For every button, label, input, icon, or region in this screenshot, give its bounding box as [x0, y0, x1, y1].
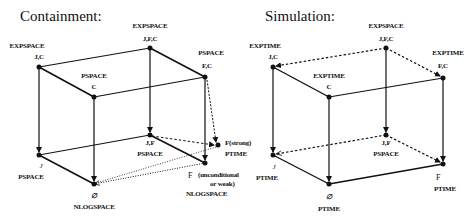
- sim-node-jf-class: PSPACE: [373, 150, 399, 159]
- node-fc-class: PSPACE: [198, 49, 224, 58]
- containment-title: Containment:: [20, 8, 102, 25]
- node-fstrong-class: PTIME: [225, 150, 247, 159]
- sim-node-fc-set: F,C: [438, 62, 448, 71]
- sim-node-jc-set: J,C: [268, 53, 278, 62]
- simulation-title: Simulation:: [265, 8, 335, 25]
- node-jc-set: J,C: [34, 53, 44, 62]
- edge-j-empty: [273, 155, 329, 184]
- sim-node-j-class: PTIME: [256, 174, 278, 183]
- node-jfc-set: J,F,C: [143, 35, 158, 44]
- node-jf-set: J,F: [146, 139, 155, 148]
- sim-node-empty-class: PTIME: [318, 205, 340, 214]
- node-empty-class: NLOGSPACE: [73, 203, 114, 212]
- edge-jc-jfc: [39, 48, 150, 67]
- edge-jfc-fc: [150, 48, 205, 77]
- simulation-cube: [271, 46, 446, 187]
- node-jfc-class: EXPSPACE: [133, 22, 168, 31]
- edge-jfc-jc-dashed: [276, 48, 386, 66]
- sim-node-jf-set: J,F: [382, 139, 391, 148]
- sim-node-f-set: F: [436, 173, 440, 182]
- sim-node-fc-class: EXPTIME: [432, 49, 463, 58]
- node-f-note1: (unconditional: [198, 171, 239, 180]
- sim-node-jc-class: EXPTIME: [249, 42, 280, 51]
- edge-empty-f: [329, 164, 443, 184]
- node-jf-class: PSPACE: [137, 150, 163, 159]
- node-c-class: PSPACE: [81, 72, 107, 81]
- sim-node-j-set: J: [273, 163, 276, 172]
- sim-node-jfc-set: J,F,C: [379, 35, 394, 44]
- containment-cube: [37, 46, 221, 187]
- node-fc-set: F,C: [202, 62, 212, 71]
- node-j-set: J: [40, 162, 43, 171]
- node-fstrong-set: F(strong): [225, 139, 251, 148]
- node-f-note2: or weak): [210, 180, 235, 189]
- sim-node-jfc-class: EXPSPACE: [369, 22, 404, 31]
- sim-node-empty-set: ∅: [326, 193, 332, 202]
- node-empty-set: ∅: [91, 192, 97, 201]
- complexity-cubes-svg: [0, 0, 476, 222]
- sim-node-f-class: PTIME: [434, 185, 456, 194]
- sim-node-c-set: C: [327, 83, 332, 92]
- edge-fc-fstrong: [207, 80, 216, 142]
- node-f-set: F: [188, 171, 192, 180]
- node-j-class: PSPACE: [18, 173, 44, 182]
- edge-j-empty: [39, 155, 94, 184]
- node-f-class: NLOGSPACE: [186, 190, 227, 199]
- node-jc-class: EXPSPACE: [10, 42, 45, 51]
- node-c-set: C: [92, 83, 97, 92]
- sim-node-c-class: EXPTIME: [313, 72, 344, 81]
- edge-jf-j-dashed: [276, 135, 386, 154]
